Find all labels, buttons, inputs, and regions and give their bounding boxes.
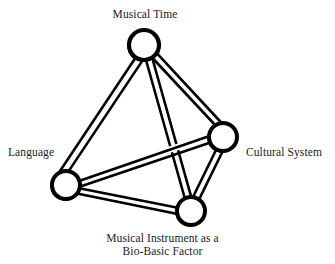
node-label-instrument-line1: Musical Instrument as a xyxy=(106,232,218,244)
node-label-cultural-system: Cultural System xyxy=(246,146,322,159)
node-language[interactable] xyxy=(50,171,80,201)
node-label-instrument-line2: Bio-Basic Factor xyxy=(55,245,270,258)
edge-cultural-system-instrument xyxy=(193,149,223,200)
edge-musical-time-language xyxy=(58,57,143,177)
edge-language-cultural-system xyxy=(79,136,213,187)
edge-language-instrument xyxy=(77,188,180,215)
node-cultural-system[interactable] xyxy=(207,123,237,153)
node-label-musical-time: Musical Time xyxy=(0,8,290,21)
node-label-instrument: Musical Instrument as a Bio-Basic Factor xyxy=(55,232,270,258)
node-label-language: Language xyxy=(8,146,54,159)
tetrahedron-diagram: Musical Time Language Cultural System Mu… xyxy=(0,0,335,264)
node-instrument[interactable] xyxy=(175,197,205,227)
edge-musical-time-instrument xyxy=(146,59,191,200)
node-musical-time[interactable] xyxy=(127,30,159,62)
tetrahedron-graphic xyxy=(0,0,335,264)
